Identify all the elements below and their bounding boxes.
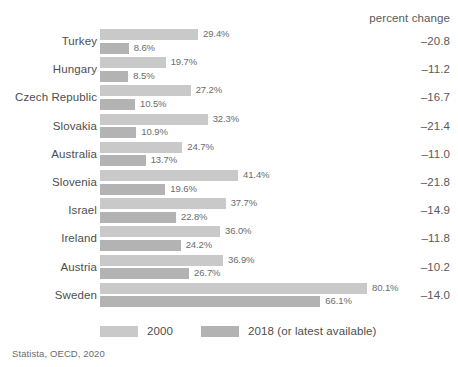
bar-value-label: 29.4% (203, 28, 229, 39)
chart-plot-area: Turkey29.4%8.6%–20.8Hungary19.7%8.5%–11.… (0, 28, 458, 310)
bar-2018 (100, 268, 189, 279)
legend-swatch-icon (100, 326, 138, 337)
bar-2000 (100, 198, 226, 209)
country-label: Sweden (0, 289, 97, 301)
bar-value-label: 37.7% (231, 197, 257, 208)
country-label: Australia (0, 148, 97, 160)
bar-value-label: 80.1% (372, 282, 398, 293)
bar-2000 (100, 142, 182, 153)
country-group: Slovenia41.4%19.6%–21.8 (0, 169, 458, 197)
bar-value-label: 10.5% (140, 98, 166, 109)
percent-change-value: –21.4 (421, 120, 450, 132)
percent-change-value: –11.0 (422, 148, 450, 160)
bar-value-label: 8.5% (133, 70, 154, 81)
bar-2018 (100, 184, 165, 195)
bar-2000 (100, 255, 223, 266)
bar-2018 (100, 240, 181, 251)
bar-2018 (100, 71, 128, 82)
bar-value-label: 36.9% (228, 254, 254, 265)
country-group: Sweden80.1%66.1%–14.0 (0, 282, 458, 310)
bar-2018 (100, 296, 320, 307)
bar-2000 (100, 283, 367, 294)
country-group: Hungary19.7%8.5%–11.2 (0, 56, 458, 84)
bar-2018 (100, 155, 146, 166)
bar-value-label: 22.8% (181, 211, 207, 222)
country-label: Turkey (0, 35, 97, 47)
bar-value-label: 24.7% (187, 141, 213, 152)
percent-change-value: –16.7 (421, 91, 450, 103)
country-label: Czech Republic (0, 91, 97, 103)
country-label: Ireland (0, 232, 97, 244)
percent-change-value: –21.8 (421, 176, 450, 188)
percent-change-value: –14.9 (421, 204, 450, 216)
percent-change-value: –11.8 (422, 232, 450, 244)
legend-label: 2018 (or latest available) (248, 325, 377, 337)
country-group: Ireland36.0%24.2%–11.8 (0, 225, 458, 253)
country-label: Israel (0, 204, 97, 216)
country-group: Slovakia32.3%10.9%–21.4 (0, 113, 458, 141)
country-group: Austria36.9%26.7%–10.2 (0, 254, 458, 282)
legend-label: 2000 (147, 325, 173, 337)
percent-change-value: –20.8 (421, 35, 450, 47)
bar-2018 (100, 43, 129, 54)
bar-chart: percent change Turkey29.4%8.6%–20.8Hunga… (0, 0, 458, 367)
bar-value-label: 10.9% (141, 126, 167, 137)
bar-value-label: 41.4% (243, 169, 269, 180)
chart-legend: 20002018 (or latest available) (100, 325, 377, 337)
bar-value-label: 19.6% (170, 183, 196, 194)
country-group: Australia24.7%13.7%–11.0 (0, 141, 458, 169)
bar-value-label: 27.2% (196, 84, 222, 95)
percent-change-value: –11.2 (422, 63, 450, 75)
country-label: Slovenia (0, 176, 97, 188)
bar-value-label: 66.1% (325, 295, 351, 306)
percent-change-value: –10.2 (421, 261, 450, 273)
bar-2000 (100, 114, 208, 125)
bar-2000 (100, 85, 191, 96)
country-group: Israel37.7%22.8%–14.9 (0, 197, 458, 225)
bar-value-label: 32.3% (213, 113, 239, 124)
bar-2000 (100, 57, 166, 68)
legend-item[interactable]: 2018 (or latest available) (201, 325, 377, 337)
bar-2000 (100, 226, 220, 237)
bar-value-label: 13.7% (151, 154, 177, 165)
bar-value-label: 19.7% (171, 56, 197, 67)
legend-swatch-icon (201, 326, 239, 337)
percent-change-value: –14.0 (421, 289, 450, 301)
bar-2018 (100, 212, 176, 223)
bar-value-label: 36.0% (225, 225, 251, 236)
country-label: Hungary (0, 63, 97, 75)
bar-value-label: 26.7% (194, 267, 220, 278)
bar-2018 (100, 99, 135, 110)
country-label: Slovakia (0, 120, 97, 132)
bar-2018 (100, 127, 136, 138)
country-group: Czech Republic27.2%10.5%–16.7 (0, 84, 458, 112)
percent-change-column-header: percent change (369, 12, 450, 24)
bar-2000 (100, 170, 238, 181)
bar-value-label: 24.2% (186, 239, 212, 250)
source-caption: Statista, OECD, 2020 (12, 348, 105, 359)
country-group: Turkey29.4%8.6%–20.8 (0, 28, 458, 56)
country-label: Austria (0, 261, 97, 273)
legend-item[interactable]: 2000 (100, 325, 173, 337)
bar-value-label: 8.6% (134, 42, 155, 53)
bar-2000 (100, 29, 198, 40)
